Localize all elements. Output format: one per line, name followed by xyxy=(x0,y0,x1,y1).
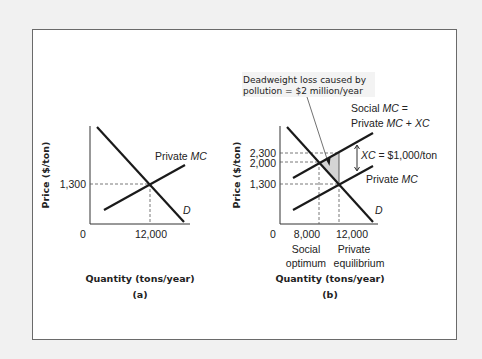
economics-diagram: 1,300 0 12,000 Private MC D Price ($/ton… xyxy=(0,0,482,359)
social-optimum-label-line2: optimum xyxy=(286,257,327,269)
panel-a: 1,300 0 12,000 Private MC D Price ($/ton… xyxy=(40,126,207,300)
dwl-annotation-line1: Deadweight loss caused by xyxy=(243,75,367,85)
panel-a-caption: (a) xyxy=(132,289,147,300)
panel-b-x-axis-label: Quantity (tons/year) xyxy=(275,273,384,284)
panel-a-y-tick-1300: 1,300 xyxy=(60,178,86,190)
social-optimum-label-line1: Social xyxy=(292,243,321,255)
panel-a-y-axis-label: Price ($/ton) xyxy=(40,142,51,209)
panel-b-y-axis-label: Price ($/ton) xyxy=(231,142,242,209)
panel-b-private-mc-label: Private MC xyxy=(366,173,418,185)
panel-b-demand-label: D xyxy=(375,204,383,216)
panel-a-private-mc-label: Private MC xyxy=(155,150,207,162)
panel-a-x-tick-0: 0 xyxy=(80,228,86,240)
panel-b-x-tick-8000: 8,000 xyxy=(294,228,320,240)
dwl-annotation-line2: pollution = $2 million/year xyxy=(243,86,363,96)
private-equilibrium-label-line1: Private xyxy=(338,243,371,255)
panel-b-caption: (b) xyxy=(322,289,337,300)
panel-a-x-axis-label: Quantity (tons/year) xyxy=(85,273,194,284)
panel-b: Deadweight loss caused by pollution = $2… xyxy=(231,72,437,300)
xc-label: XC = $1,000/ton xyxy=(360,149,437,161)
panel-a-x-tick-12000: 12,000 xyxy=(135,228,167,240)
panel-a-demand-label: D xyxy=(183,204,191,216)
panel-b-y-tick-2000: 2,000 xyxy=(250,157,276,169)
private-equilibrium-label-line2: equilibrium xyxy=(334,257,385,269)
panel-b-x-tick-0: 0 xyxy=(270,228,276,240)
panel-b-y-tick-1300: 1,300 xyxy=(250,178,276,190)
social-mc-label-line2: Private MC + XC xyxy=(351,117,430,129)
xc-double-arrow-icon xyxy=(355,145,360,171)
panel-b-x-tick-12000: 12,000 xyxy=(336,228,368,240)
social-mc-label-line1: Social MC = xyxy=(351,102,408,114)
panel-a-private-mc-curve xyxy=(104,165,185,210)
